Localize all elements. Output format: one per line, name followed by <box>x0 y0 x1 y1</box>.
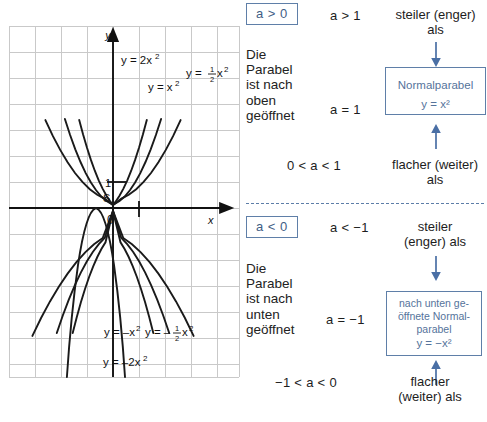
condition-a-equals-minus-1: a = −1 <box>326 312 365 327</box>
curve-label-y-neg-x2: y = –x <box>104 326 135 338</box>
axis-label-x: x <box>207 214 214 226</box>
grid-lines <box>9 26 239 377</box>
condition-minus1-a-0: −1 < a < 0 <box>275 375 337 390</box>
curve-label-y-neg-2x2-exp: 2 <box>143 354 148 363</box>
curve-label-y-half-x2: y = <box>186 67 202 79</box>
arrow-down-positive <box>429 42 443 68</box>
parabola-graph: y x 1 S 0 y = 2x 2 y = x 2 y = 1 2 x 2 y… <box>8 25 240 378</box>
badge-a-negative: a < 0 <box>246 216 298 238</box>
curve-label-neg-half-x: x <box>182 326 188 338</box>
curve-label-half-exp: 2 <box>224 65 229 74</box>
box-normalparabel-negative: nach unten ge- öffnete Normal- parabel y… <box>386 291 482 356</box>
explanation-panel: a > 0 Die Parabel ist nach oben geöffnet… <box>243 0 487 422</box>
condition-a-greater-1: a > 1 <box>330 8 361 23</box>
section-a-positive: a > 0 Die Parabel ist nach oben geöffnet… <box>243 0 487 203</box>
curve-label-half-x: x <box>217 67 223 79</box>
arrow-up-positive <box>429 123 443 149</box>
curve-label-y-neg-2x2: y = –2x <box>103 356 141 368</box>
svg-text:1: 1 <box>175 324 179 333</box>
curve-label-y-x2-exp: 2 <box>175 79 180 88</box>
curve-label-neg-half-frac: 1 2 <box>173 324 181 343</box>
condition-a-less-minus-1: a < −1 <box>330 220 369 235</box>
svg-text:2: 2 <box>210 75 214 84</box>
arrow-down-negative <box>429 256 443 282</box>
relation-steeper-positive: steiler (enger) als <box>384 8 487 37</box>
parabola-graph-svg: y x 1 S 0 y = 2x 2 y = x 2 y = 1 2 x 2 y… <box>8 25 240 378</box>
svg-text:2: 2 <box>175 334 179 343</box>
box-neg-line1: nach unten ge- <box>387 297 481 310</box>
box-neg-line2: öffnete Normal- <box>387 310 481 323</box>
box-normalparabel-equation: y = x² <box>386 95 485 114</box>
curve-label-y-neg-x2-exp: 2 <box>136 324 141 333</box>
vertex-label-S: S <box>103 192 110 204</box>
section-a-negative: a < 0 Die Parabel ist nach unten geöffne… <box>243 211 487 422</box>
description-a-negative: Die Parabel ist nach unten geöffnet <box>246 261 312 337</box>
curve-label-y-neg-half-x2: y = – <box>145 326 171 338</box>
curve-y-2x2 <box>67 208 125 377</box>
curve-label-y-2x2-exp: 2 <box>155 52 160 61</box>
section-divider <box>246 203 484 204</box>
description-a-positive: Die Parabel ist nach oben geöffnet <box>246 47 312 123</box>
svg-text:1: 1 <box>210 65 214 74</box>
condition-a-equals-1: a = 1 <box>330 102 361 117</box>
box-normalparabel-title: Normalparabel <box>386 76 485 95</box>
curve-label-y-x2: y = x <box>148 81 173 93</box>
badge-a-positive: a > 0 <box>246 3 298 25</box>
relation-flatter-negative: flacher (weiter) als <box>388 375 472 404</box>
curve-label-half-frac: 1 2 <box>208 65 216 84</box>
relation-flatter-positive: flacher (weiter) als <box>383 158 487 187</box>
curve-label-y-2x2: y = 2x <box>121 54 152 66</box>
box-neg-equation: y = −x² <box>387 337 481 350</box>
relation-steeper-negative: steiler (enger) als <box>395 220 475 249</box>
parabola-curves <box>67 208 125 377</box>
box-neg-line3: parabel <box>387 323 481 336</box>
curve-label-neg-half-exp: 2 <box>189 324 194 333</box>
condition-0-a-1: 0 < a < 1 <box>287 158 341 173</box>
box-normalparabel: Normalparabel y = x² <box>385 67 486 115</box>
unit-label-1: 1 <box>105 177 111 189</box>
axis-label-y: y <box>104 29 112 41</box>
origin-label-0: 0 <box>107 213 114 227</box>
